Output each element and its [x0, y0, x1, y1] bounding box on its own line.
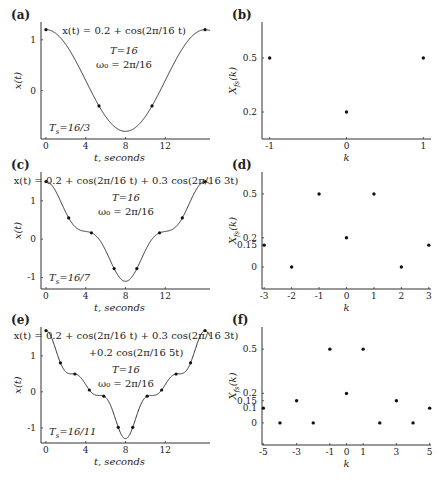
x-tick-label: 12 [160, 141, 171, 151]
panel-label: (b) [232, 8, 252, 22]
x-tick-label: -3 [260, 291, 269, 301]
coefficient-point [290, 265, 293, 268]
coefficient-point [361, 347, 364, 350]
coefficient-point [345, 236, 348, 239]
panel-b-coefficient-plot: -1010.20.5(b)kXfs(k) [227, 8, 431, 163]
coefficient-point [317, 192, 320, 195]
x-tick-label: 8 [123, 291, 129, 301]
sample-point [90, 231, 93, 234]
x-tick-label: 1 [371, 291, 377, 301]
x-tick-label: 8 [123, 445, 129, 455]
y-tick-label: 0 [251, 262, 257, 272]
sample-point [146, 395, 149, 398]
coefficient-point [378, 421, 381, 424]
coefficient-point [427, 243, 430, 246]
panel-a-signal-plot: 0481201(a)t, secondsx(t)x(t) = 0.2 + cos… [11, 8, 210, 163]
sample-point [175, 372, 178, 375]
y-tick-label: 0 [251, 418, 257, 428]
sample-point [44, 28, 47, 31]
sample-point [97, 104, 100, 107]
period-label: T=16 [110, 45, 138, 56]
x-tick-label: 0 [344, 291, 350, 301]
sample-point [158, 231, 161, 234]
x-axis-title: k [343, 152, 349, 163]
y-tick-label: 0.5 [243, 189, 258, 199]
y-axis-title: x(t) [12, 222, 23, 240]
x-tick-label: -5 [259, 447, 268, 457]
x-tick-label: 5 [427, 447, 433, 457]
sample-point [102, 395, 105, 398]
coefficient-point [411, 421, 414, 424]
period-label: T=16 [112, 192, 140, 203]
coefficient-point [278, 421, 281, 424]
sample-point [73, 372, 76, 375]
coefficient-point [312, 421, 315, 424]
x-tick-label: 1 [360, 447, 366, 457]
x-tick-label: 4 [83, 445, 89, 455]
coefficient-point [400, 265, 403, 268]
x-tick-label: -1 [315, 291, 324, 301]
x-tick-label: 0 [344, 447, 350, 457]
sampling-period-label: Ts=16/11 [49, 426, 96, 440]
y-tick-label: 0 [30, 86, 36, 96]
x-tick-label: 0 [43, 291, 49, 301]
coefficient-point [422, 56, 425, 59]
omega-label: ω₀ = 2π/16 [98, 206, 154, 217]
equation-text: x(t) = 0.2 + cos(2π/16 t) [62, 25, 186, 36]
coefficient-point [328, 347, 331, 350]
y-tick-label: 1 [30, 35, 36, 45]
y-tick-label: 0.2 [243, 388, 257, 398]
coefficient-point [262, 406, 265, 409]
coefficient-point [268, 56, 271, 59]
sample-point [67, 216, 70, 219]
sample-point [88, 388, 91, 391]
x-axis-title: t, seconds [94, 456, 145, 467]
sample-point [160, 388, 163, 391]
x-tick-label: 0 [43, 141, 49, 151]
x-tick-label: 3 [426, 291, 432, 301]
y-tick-label: 0.5 [243, 53, 258, 63]
coefficient-point [395, 399, 398, 402]
y-tick-label: 1 [30, 196, 36, 206]
coefficient-point [345, 392, 348, 395]
panel-label: (d) [232, 158, 252, 172]
y-axis-title: Xfs(k) [227, 67, 241, 95]
coefficient-point [345, 110, 348, 113]
sample-point [203, 28, 206, 31]
y-tick-label: 0.2 [243, 233, 257, 243]
coefficient-point [295, 399, 298, 402]
omega-label: ω₀ = 2π/16 [96, 59, 152, 70]
y-tick-label: -1 [27, 423, 36, 433]
x-tick-label: 1 [420, 141, 426, 151]
sample-point [113, 267, 116, 270]
figure: 0481201(a)t, secondsx(t)x(t) = 0.2 + cos… [0, 0, 444, 484]
x-tick-label: 8 [123, 141, 129, 151]
panel-f-coefficient-plot: -5-3-1013500.10.150.20.5(f)kXfs(k) [227, 313, 433, 469]
coefficient-point [428, 406, 431, 409]
y-tick-label: 1 [30, 351, 36, 361]
panel-c-signal-plot: 04812-101(c)t, secondsx(t)x(t) = 0.2 + c… [11, 158, 238, 313]
sampling-period-label: Ts=16/3 [49, 122, 90, 136]
y-tick-label: 0.2 [243, 107, 257, 117]
x-tick-label: 0 [43, 445, 49, 455]
y-tick-label: 0 [30, 387, 36, 397]
sample-point [181, 216, 184, 219]
sample-point [189, 361, 192, 364]
sampling-period-label: Ts=16/7 [49, 272, 91, 286]
sample-point [59, 361, 62, 364]
omega-label: ω₀ = 2π/16 [98, 378, 154, 389]
x-axis-title: t, seconds [94, 152, 145, 163]
panel-e-signal-plot: 04812-101(e)t, secondsx(t)x(t) = 0.2 + c… [11, 313, 238, 467]
x-tick-label: 12 [160, 445, 171, 455]
x-tick-label: -1 [325, 447, 334, 457]
equation-text: +0.2 cos(2π/16 5t) [89, 347, 184, 358]
panel-label: (c) [11, 158, 30, 172]
x-axis-title: k [343, 302, 349, 313]
x-tick-label: 0 [344, 141, 350, 151]
equation-text: x(t) = 0.2 + cos(2π/16 t) + 0.3 cos(2π/1… [14, 330, 239, 341]
x-tick-label: 2 [399, 291, 405, 301]
coefficient-point [372, 192, 375, 195]
x-axis-title: t, seconds [94, 302, 145, 313]
y-axis-title: x(t) [12, 376, 23, 394]
coefficient-point [262, 243, 265, 246]
